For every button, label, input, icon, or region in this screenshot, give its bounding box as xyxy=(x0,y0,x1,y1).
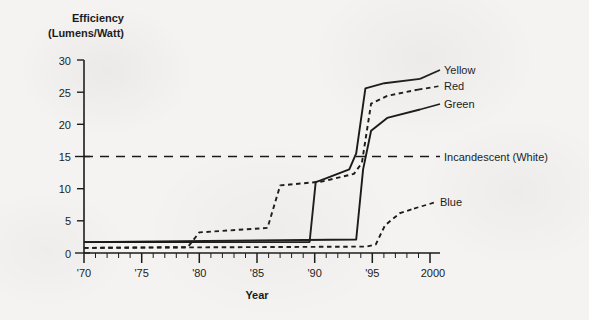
y-tick-label-0: 0 xyxy=(65,248,71,260)
y-axis-title-line1: Efficiency xyxy=(72,12,125,24)
x-tick-label-1980: '80 xyxy=(192,267,206,279)
y-axis-title-line2: (Lumens/Watt) xyxy=(48,27,124,39)
x-axis-title: Year xyxy=(245,289,269,301)
efficiency-vs-year-chart: Efficiency (Lumens/Watt) 30 25 20 15 10 … xyxy=(0,0,589,320)
x-tick-label-1970: '70 xyxy=(77,267,91,279)
y-tick-label-30: 30 xyxy=(59,55,71,67)
x-tick-label-2000: 2000 xyxy=(421,267,445,279)
series-label-yellow: Yellow xyxy=(444,64,475,76)
y-tick-label-15: 15 xyxy=(59,151,71,163)
x-tick-label-1975: '75 xyxy=(135,267,149,279)
x-tick-label-1995: '95 xyxy=(365,267,379,279)
y-tick-label-5: 5 xyxy=(65,215,71,227)
x-tick-label-1990: '90 xyxy=(308,267,322,279)
series-label-green: Green xyxy=(444,98,475,110)
y-tick-label-20: 20 xyxy=(59,119,71,131)
x-tick-label-1985: '85 xyxy=(250,267,264,279)
y-tick-label-10: 10 xyxy=(59,183,71,195)
series-label-blue: Blue xyxy=(440,196,462,208)
series-label-incandescent: Incandescent (White) xyxy=(444,151,548,163)
series-label-red: Red xyxy=(444,80,464,92)
y-tick-label-25: 25 xyxy=(59,87,71,99)
